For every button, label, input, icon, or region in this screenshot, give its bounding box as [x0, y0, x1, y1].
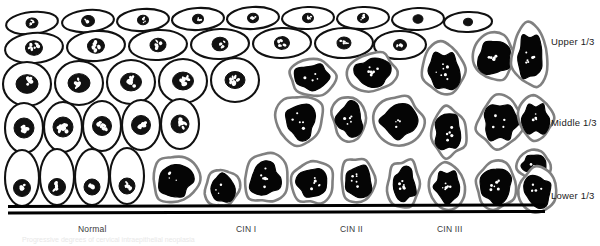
dysplastic-cell — [289, 59, 336, 96]
chromatin-speckle — [262, 177, 264, 179]
chromatin-speckle — [376, 67, 379, 70]
chromatin-speckle — [318, 184, 320, 186]
chromatin-speckle — [302, 121, 304, 123]
normal-cell — [171, 7, 224, 32]
chromatin-speckle — [446, 139, 449, 142]
chromatin-speckle — [343, 117, 346, 120]
chromatin-speckle — [399, 187, 402, 190]
chromatin-speckle — [497, 188, 500, 191]
chromatin-speckle — [530, 163, 533, 166]
chromatin-speckle — [540, 188, 542, 190]
chromatin-speckle — [372, 70, 375, 73]
basement-membrane-line-2 — [8, 212, 545, 214]
chromatin-speckle — [489, 188, 492, 191]
normal-cell — [66, 29, 126, 63]
chromatin-speckle — [502, 126, 504, 128]
dysplastic-cell — [331, 97, 366, 141]
chromatin-speckle — [367, 70, 370, 73]
chromatin-speckle — [398, 182, 401, 185]
chromatin-speckle — [303, 76, 306, 79]
zone-label-lower-third: Lower 1/3 — [551, 190, 595, 201]
nucleus — [463, 18, 472, 26]
chromatin-speckle — [356, 173, 358, 175]
chromatin-speckle — [313, 182, 315, 184]
dysplastic-cell — [431, 106, 467, 159]
chromatin-speckle — [356, 181, 358, 183]
chromatin-speckle — [369, 66, 371, 68]
normal-cell — [211, 58, 259, 102]
chromatin-speckle — [525, 61, 527, 63]
chromatin-speckle — [494, 114, 497, 117]
chromatin-speckle — [266, 178, 268, 180]
chromatin-speckle — [350, 121, 352, 123]
stage-label-normal: Normal — [78, 224, 107, 234]
chromatin-speckle — [446, 133, 448, 135]
chromatin-speckle — [525, 51, 527, 53]
nucleus — [274, 36, 289, 49]
normal-cell — [83, 101, 121, 151]
chromatin-speckle — [440, 74, 442, 76]
chromatin-speckle — [370, 74, 373, 77]
dysplastic-cell — [473, 32, 516, 80]
chromatin-speckle — [169, 177, 171, 179]
chromatin-speckle — [444, 73, 447, 76]
chromatin-speckle — [314, 177, 316, 179]
normal-cell — [110, 148, 144, 204]
dysplastic-cell — [422, 41, 466, 94]
chromatin-speckle — [302, 127, 305, 130]
normal-cell — [444, 11, 493, 33]
stage-label-cin-1: CIN I — [236, 224, 256, 234]
cin-progression-figure: Upper 1/3 Middle 1/3 Lower 1/3 Normal CI… — [0, 0, 600, 246]
normal-cell — [190, 28, 249, 60]
chromatin-speckle — [435, 71, 436, 72]
dysplastic-cell — [154, 157, 201, 203]
chromatin-speckle — [351, 175, 354, 178]
dysplastic-cell — [429, 162, 465, 210]
chromatin-speckle — [356, 185, 359, 188]
chromatin-speckle — [220, 184, 222, 186]
chromatin-speckle — [449, 186, 452, 189]
figure-caption: Progressive degrees of cervical intraepi… — [22, 236, 195, 243]
normal-cell — [4, 31, 64, 66]
normal-cell — [315, 27, 374, 58]
chromatin-speckle — [350, 115, 352, 117]
chromatin-speckle — [442, 63, 444, 65]
dysplastic-cell — [387, 159, 420, 207]
chromatin-speckle — [447, 185, 449, 187]
chromatin-speckle — [370, 71, 373, 74]
chromatin-speckle — [395, 121, 397, 123]
normal-cell — [122, 100, 160, 150]
stage-label-cin-2: CIN II — [340, 224, 363, 234]
nucleus — [435, 114, 461, 150]
chromatin-speckle — [450, 134, 453, 137]
normal-cell — [159, 59, 207, 103]
chromatin-speckle — [490, 56, 493, 59]
chromatin-speckle — [494, 186, 496, 188]
normal-cell — [226, 6, 279, 31]
chromatin-speckle — [450, 126, 453, 129]
chromatin-speckle — [218, 192, 219, 193]
chromatin-speckle — [503, 119, 505, 121]
chromatin-speckle — [533, 56, 536, 59]
normal-cell — [44, 102, 82, 152]
nucleus — [225, 72, 245, 89]
zone-label-middle-third: Middle 1/3 — [551, 117, 597, 128]
normal-cell — [252, 27, 311, 59]
dysplastic-cell — [291, 161, 333, 204]
chromatin-speckle — [351, 180, 353, 182]
basement-membrane-layer — [8, 205, 545, 213]
chromatin-speckle — [403, 187, 406, 190]
chromatin-speckle — [535, 118, 537, 120]
chromatin-speckle — [299, 121, 301, 123]
chromatin-speckle — [442, 187, 443, 188]
chromatin-speckle — [448, 131, 450, 133]
normal-cell — [128, 29, 187, 62]
chromatin-speckle — [444, 188, 446, 190]
dysplastic-cell — [205, 170, 241, 205]
chromatin-speckle — [260, 174, 262, 176]
chromatin-speckle — [311, 79, 313, 81]
chromatin-speckle — [531, 190, 533, 192]
chromatin-speckle — [527, 61, 529, 63]
normal-cell — [337, 6, 390, 30]
stage-label-cin-3: CIN III — [437, 224, 463, 234]
